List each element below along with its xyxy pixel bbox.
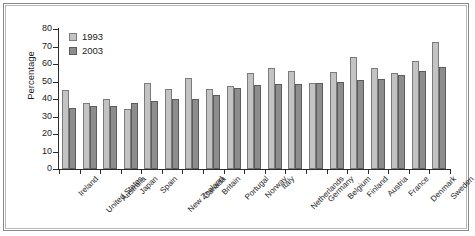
x-axis-tick bbox=[388, 170, 389, 174]
x-axis-tick bbox=[265, 170, 266, 174]
bar-1993 bbox=[62, 90, 69, 169]
y-axis-tick bbox=[53, 47, 58, 48]
x-axis-tick bbox=[347, 170, 348, 174]
bar-group bbox=[123, 29, 142, 169]
x-axis-tick bbox=[244, 170, 245, 174]
y-axis-tick-label: 10 bbox=[8, 147, 52, 156]
bar-group bbox=[102, 29, 121, 169]
y-axis-tick-label: 60 bbox=[8, 59, 52, 68]
y-axis-tick bbox=[53, 99, 58, 100]
y-axis-tick-label-wrap: 40 bbox=[6, 94, 52, 103]
x-axis-category-label: Ireland bbox=[77, 175, 100, 198]
bar-1993 bbox=[330, 72, 337, 169]
bar-1993 bbox=[124, 109, 131, 169]
x-axis-tick bbox=[59, 170, 60, 174]
legend-label-1993: 1993 bbox=[82, 31, 103, 43]
figure-inner-frame: Percentage 01020304050607080 IrelandUnit… bbox=[5, 5, 467, 229]
bar-1993 bbox=[185, 78, 192, 169]
bar-2003 bbox=[439, 67, 446, 169]
legend-swatch-1993 bbox=[69, 33, 77, 41]
bar-group bbox=[349, 29, 368, 169]
x-axis-tick bbox=[224, 170, 225, 174]
bar-1993 bbox=[165, 89, 172, 170]
bar-1993 bbox=[288, 71, 295, 169]
x-axis-tick bbox=[285, 170, 286, 174]
y-axis-tick-label: 0 bbox=[8, 164, 52, 173]
bar-2003 bbox=[172, 99, 179, 169]
bar-1993 bbox=[206, 89, 213, 169]
bar-2003 bbox=[213, 95, 220, 169]
bar-group bbox=[143, 29, 162, 169]
bar-2003 bbox=[357, 80, 364, 169]
bar-group bbox=[390, 29, 409, 169]
y-axis-tick-label: 30 bbox=[8, 112, 52, 121]
bar-2003 bbox=[398, 75, 405, 170]
x-axis-tick bbox=[162, 170, 163, 174]
plot-area bbox=[59, 29, 450, 169]
x-axis-category-label: France bbox=[407, 175, 430, 198]
y-axis-tick bbox=[53, 64, 58, 65]
y-axis-title: Percentage bbox=[25, 26, 36, 126]
bar-1993 bbox=[103, 99, 110, 169]
x-axis-line bbox=[58, 169, 451, 170]
y-axis-tick bbox=[53, 134, 58, 135]
bar-group bbox=[226, 29, 245, 169]
y-axis-tick-label-wrap: 60 bbox=[6, 59, 52, 68]
y-axis-tick-label-wrap: 70 bbox=[6, 42, 52, 51]
bar-1993 bbox=[350, 57, 357, 169]
bar-1993 bbox=[247, 73, 254, 169]
x-axis-tick bbox=[80, 170, 81, 174]
y-axis-tick-label: 40 bbox=[8, 94, 52, 103]
bar-1993 bbox=[268, 68, 275, 169]
y-axis-tick-label-wrap: 10 bbox=[6, 147, 52, 156]
bar-1993 bbox=[144, 83, 151, 169]
x-axis-tick bbox=[121, 170, 122, 174]
y-axis-tick-label: 80 bbox=[8, 24, 52, 33]
figure-outer-frame: Percentage 01020304050607080 IrelandUnit… bbox=[3, 3, 469, 231]
bar-group bbox=[287, 29, 306, 169]
bar-group bbox=[164, 29, 183, 169]
y-axis-tick-label: 50 bbox=[8, 77, 52, 86]
y-axis-tick bbox=[53, 82, 58, 83]
bar-2003 bbox=[337, 82, 344, 169]
x-axis-tick bbox=[203, 170, 204, 174]
bar-group bbox=[267, 29, 286, 169]
x-axis-tick bbox=[409, 170, 410, 174]
bar-2003 bbox=[90, 106, 97, 169]
y-axis-tick-label-wrap: 30 bbox=[6, 112, 52, 121]
y-axis-tick-label: 70 bbox=[8, 42, 52, 51]
bar-2003 bbox=[234, 88, 241, 169]
x-axis-tick bbox=[141, 170, 142, 174]
bar-1993 bbox=[83, 103, 90, 169]
bar-1993 bbox=[309, 83, 316, 169]
y-axis-tick bbox=[53, 169, 58, 170]
x-axis-tick bbox=[429, 170, 430, 174]
y-axis-tick bbox=[53, 152, 58, 153]
x-axis-category-label: Austria bbox=[386, 175, 409, 198]
bar-1993 bbox=[227, 86, 234, 169]
legend-label-2003: 2003 bbox=[82, 45, 103, 57]
bar-2003 bbox=[316, 83, 323, 169]
bar-2003 bbox=[110, 106, 117, 169]
y-axis-tick bbox=[53, 117, 58, 118]
y-axis-tick-label-wrap: 20 bbox=[6, 129, 52, 138]
bar-2003 bbox=[254, 85, 261, 169]
bar-group bbox=[205, 29, 224, 169]
bar-2003 bbox=[131, 103, 138, 170]
bar-2003 bbox=[295, 84, 302, 169]
bar-2003 bbox=[69, 108, 76, 169]
bar-group bbox=[184, 29, 203, 169]
x-axis-tick bbox=[368, 170, 369, 174]
y-axis-tick bbox=[53, 29, 58, 30]
bar-2003 bbox=[419, 71, 426, 169]
bar-1993 bbox=[371, 68, 378, 169]
y-axis-tick-label-wrap: 0 bbox=[6, 164, 52, 173]
x-axis-category-label: Spain bbox=[159, 175, 179, 195]
legend-swatch-2003 bbox=[69, 47, 77, 55]
x-axis-tick bbox=[182, 170, 183, 174]
x-axis-tick bbox=[100, 170, 101, 174]
bar-2003 bbox=[378, 79, 385, 169]
bar-1993 bbox=[391, 73, 398, 169]
y-axis-tick-label-wrap: 80 bbox=[6, 24, 52, 33]
bar-group bbox=[370, 29, 389, 169]
